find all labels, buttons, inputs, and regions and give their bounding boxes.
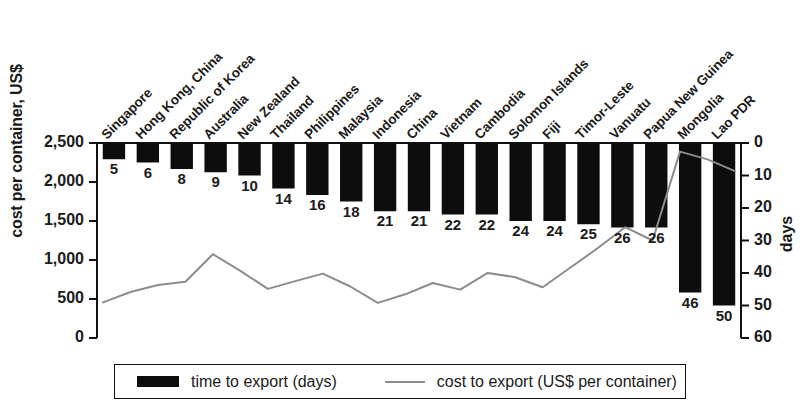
bar-value-label: 16 bbox=[300, 196, 334, 213]
bar bbox=[509, 143, 531, 221]
legend-label-bar: time to export (days) bbox=[191, 373, 337, 391]
bar-value-label: 8 bbox=[165, 170, 199, 187]
bar-swatch-icon bbox=[137, 376, 179, 387]
bar bbox=[374, 143, 396, 211]
bar bbox=[272, 143, 294, 189]
bar bbox=[611, 143, 633, 228]
bar bbox=[476, 143, 498, 215]
chart-legend: time to export (days) cost to export (US… bbox=[114, 364, 686, 399]
bar-value-label: 46 bbox=[673, 294, 707, 311]
bar bbox=[577, 143, 599, 224]
bar bbox=[408, 143, 430, 211]
right-tick-label: 30 bbox=[754, 231, 772, 249]
bar bbox=[137, 143, 159, 163]
left-tick-label: 1,000 bbox=[0, 250, 84, 268]
legend-label-line: cost to export (US$ per container) bbox=[437, 373, 677, 391]
left-tick-label: 0 bbox=[0, 328, 84, 346]
right-tick-label: 50 bbox=[754, 296, 772, 314]
bar-value-label: 9 bbox=[199, 173, 233, 190]
left-tick-label: 2,500 bbox=[0, 133, 84, 151]
bar bbox=[679, 143, 701, 293]
bar bbox=[340, 143, 362, 202]
legend-item-line: cost to export (US$ per container) bbox=[337, 373, 677, 391]
bar-value-label: 10 bbox=[233, 177, 267, 194]
bar-value-label: 26 bbox=[639, 229, 673, 246]
left-tick-label: 2,000 bbox=[0, 172, 84, 190]
line-swatch-icon bbox=[385, 381, 425, 383]
right-tick-label: 40 bbox=[754, 263, 772, 281]
left-tick-label: 500 bbox=[0, 289, 84, 307]
bar bbox=[645, 143, 667, 228]
bar-value-label: 26 bbox=[605, 229, 639, 246]
bar-value-label: 6 bbox=[131, 164, 165, 181]
right-tick-label: 0 bbox=[754, 133, 763, 151]
chart-figure: cost per container, US$ days 2,5002,0001… bbox=[0, 0, 803, 401]
bar bbox=[171, 143, 193, 169]
bar-value-label: 50 bbox=[707, 307, 741, 324]
bar-value-label: 14 bbox=[266, 190, 300, 207]
left-tick-marks bbox=[89, 143, 97, 338]
bar-value-label: 24 bbox=[538, 222, 572, 239]
bar-value-label: 5 bbox=[97, 160, 131, 177]
bar bbox=[543, 143, 565, 221]
bar-value-label: 22 bbox=[436, 216, 470, 233]
bar-value-label: 22 bbox=[470, 216, 504, 233]
right-tick-label: 20 bbox=[754, 198, 772, 216]
legend-item-bar: time to export (days) bbox=[115, 373, 337, 391]
left-tick-label: 1,500 bbox=[0, 211, 84, 229]
bar-value-label: 24 bbox=[504, 222, 538, 239]
right-tick-label: 60 bbox=[754, 328, 772, 346]
right-tick-label: 10 bbox=[754, 166, 772, 184]
bar-value-label: 18 bbox=[334, 203, 368, 220]
plot-area bbox=[0, 0, 803, 401]
bar bbox=[103, 143, 125, 159]
bar bbox=[442, 143, 464, 215]
bar bbox=[238, 143, 260, 176]
bar-value-label: 25 bbox=[572, 225, 606, 242]
bar bbox=[306, 143, 328, 195]
bar-value-label: 21 bbox=[402, 212, 436, 229]
bar bbox=[204, 143, 226, 172]
right-tick-marks bbox=[741, 143, 749, 338]
bar-value-label: 21 bbox=[368, 212, 402, 229]
